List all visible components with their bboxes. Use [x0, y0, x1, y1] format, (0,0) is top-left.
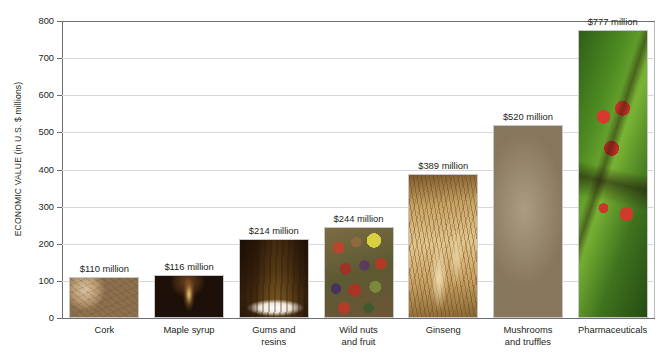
y-tick-label: 600 — [26, 90, 54, 100]
ginseng-roots-photo — [409, 175, 477, 317]
bar-maple-syrup — [154, 275, 224, 318]
y-tick-label: 700 — [26, 53, 54, 63]
red-berries-on-leaf-photo — [579, 31, 647, 317]
y-tick-label: 400 — [26, 165, 54, 175]
category-label-line1: Gums and — [252, 324, 295, 335]
bar-value-label: $214 million — [214, 225, 334, 236]
bar-value-label: $777 million — [553, 16, 665, 27]
category-label-line1: Ginseng — [426, 324, 461, 335]
bar-wild-nuts — [324, 227, 394, 318]
y-axis-title: ECONOMIC VALUE (in U.S. $ millions) — [13, 59, 23, 259]
category-label-line1: Cork — [94, 324, 114, 335]
y-tick-label: 500 — [26, 127, 54, 137]
cork-stoppers-photo — [70, 278, 138, 317]
maple-syrup-pouring-photo — [155, 276, 223, 317]
plot-area: 0100200300400500600700800 $110 million$1… — [62, 21, 655, 318]
bar-cork — [69, 277, 139, 318]
bar-gums-and — [239, 239, 309, 318]
bar-value-label: $389 million — [383, 160, 503, 171]
category-label-line1: Wild nuts — [339, 324, 378, 335]
bar-value-label: $520 million — [468, 111, 588, 122]
bar-ginseng — [408, 174, 478, 318]
category-label-line2: and fruit — [294, 336, 424, 348]
bar-value-label: $244 million — [299, 213, 419, 224]
mushrooms-photo — [494, 126, 562, 317]
wild-nuts-and-fruit-photo — [325, 228, 393, 317]
y-tick-mark — [57, 318, 62, 319]
bar-mushrooms — [493, 125, 563, 318]
y-tick-label: 300 — [26, 202, 54, 212]
y-tick-label: 200 — [26, 239, 54, 249]
bar-pharmaceuticals — [578, 30, 648, 318]
category-label-line1: Mushrooms — [503, 324, 552, 335]
category-label-line1: Pharmaceuticals — [578, 324, 647, 335]
y-tick-label: 800 — [26, 16, 54, 26]
y-tick-label: 0 — [26, 313, 54, 323]
category-label-pharmaceuticals: Pharmaceuticals — [548, 324, 665, 336]
economic-value-bar-chart: ECONOMIC VALUE (in U.S. $ millions) 0100… — [0, 0, 665, 358]
y-tick-label: 100 — [26, 276, 54, 286]
category-label-line1: Maple syrup — [164, 324, 215, 335]
rubber-tree-tapping-photo — [240, 240, 308, 317]
category-label-line2: and truffles — [463, 336, 593, 348]
bar-value-label: $116 million — [129, 261, 249, 272]
gridline-0 — [62, 318, 655, 319]
